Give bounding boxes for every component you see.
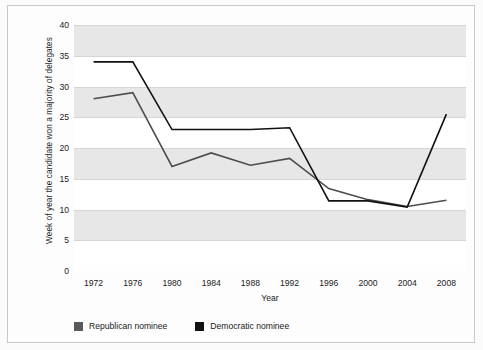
legend-swatch-icon: [195, 322, 204, 331]
x-tick-label: 2000: [358, 278, 377, 288]
x-tick-label: 1972: [84, 278, 103, 288]
x-axis-label: Year: [74, 293, 466, 303]
y-tick-label: 0: [64, 266, 69, 276]
x-tick-label: 1976: [123, 278, 142, 288]
y-tick-label: 5: [64, 235, 69, 245]
x-tick-label: 1996: [319, 278, 338, 288]
chart-frame: Week of year the candidate won a majorit…: [7, 5, 475, 343]
series-line: [94, 62, 447, 207]
plot-area: [74, 25, 466, 271]
legend-label: Democratic nominee: [210, 321, 289, 331]
y-tick-label: 40: [59, 20, 69, 30]
chart-figure: Week of year the candidate won a majorit…: [0, 0, 483, 350]
series-line: [94, 93, 447, 207]
x-tick-label: 1988: [241, 278, 260, 288]
series-lines: [74, 25, 466, 271]
legend-entry: Democratic nominee: [195, 321, 289, 331]
y-tick-label: 10: [59, 205, 69, 215]
x-tick-label: 1980: [162, 278, 181, 288]
x-tick-label: 1984: [202, 278, 221, 288]
legend-swatch-icon: [74, 322, 83, 331]
legend-entry: Republican nominee: [74, 321, 167, 331]
y-tick-label: 25: [59, 112, 69, 122]
x-tick-label: 2008: [437, 278, 456, 288]
y-tick-label: 35: [59, 51, 69, 61]
plot-area-wrapper: 0510152025303540 19721976198019841988199…: [74, 25, 466, 271]
x-tick-label: 1992: [280, 278, 299, 288]
y-tick-label: 20: [59, 143, 69, 153]
chart-legend: Republican nomineeDemocratic nominee: [74, 321, 289, 331]
legend-label: Republican nominee: [89, 321, 167, 331]
x-tick-label: 2004: [398, 278, 417, 288]
y-axis-label: Week of year the candidate won a majorit…: [45, 16, 54, 266]
y-tick-label: 15: [59, 174, 69, 184]
y-tick-label: 30: [59, 82, 69, 92]
